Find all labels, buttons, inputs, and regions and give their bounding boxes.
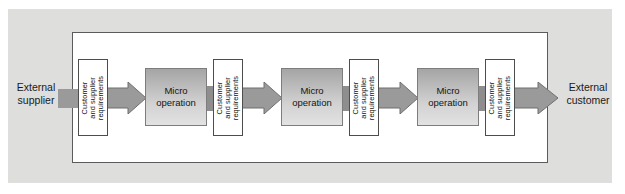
- requirements-card-1-label: Customer and supplier requirements: [81, 61, 106, 135]
- micro-operation-box-3: Micro operation: [417, 68, 479, 126]
- requirements-card-2-label: Customer and supplier requirements: [216, 61, 241, 135]
- flow-arrow-2: [242, 82, 282, 114]
- requirements-card-3: Customer and supplier requirements: [349, 59, 379, 136]
- flow-arrow-1: [106, 82, 146, 114]
- requirements-card-2: Customer and supplier requirements: [213, 59, 243, 136]
- micro-operation-box-1-label: Micro operation: [156, 85, 196, 109]
- flow-arrow-exit: [514, 82, 558, 114]
- requirements-card-1: Customer and supplier requirements: [78, 59, 108, 136]
- micro-operation-box-2-label: Micro operation: [292, 85, 332, 109]
- external-customer-label: External customer: [556, 81, 620, 107]
- micro-operation-box-2: Micro operation: [281, 68, 343, 126]
- diagram-canvas: External supplier External customer Cust…: [0, 0, 625, 194]
- micro-operation-box-3-label: Micro operation: [428, 85, 468, 109]
- requirements-card-4: Customer and supplier requirements: [485, 59, 515, 136]
- micro-operation-box-1: Micro operation: [145, 68, 207, 126]
- requirements-card-4-label: Customer and supplier requirements: [488, 61, 513, 135]
- requirements-card-3-label: Customer and supplier requirements: [352, 61, 377, 135]
- flow-bar-entry: [58, 89, 80, 108]
- flow-arrow-3: [378, 82, 418, 114]
